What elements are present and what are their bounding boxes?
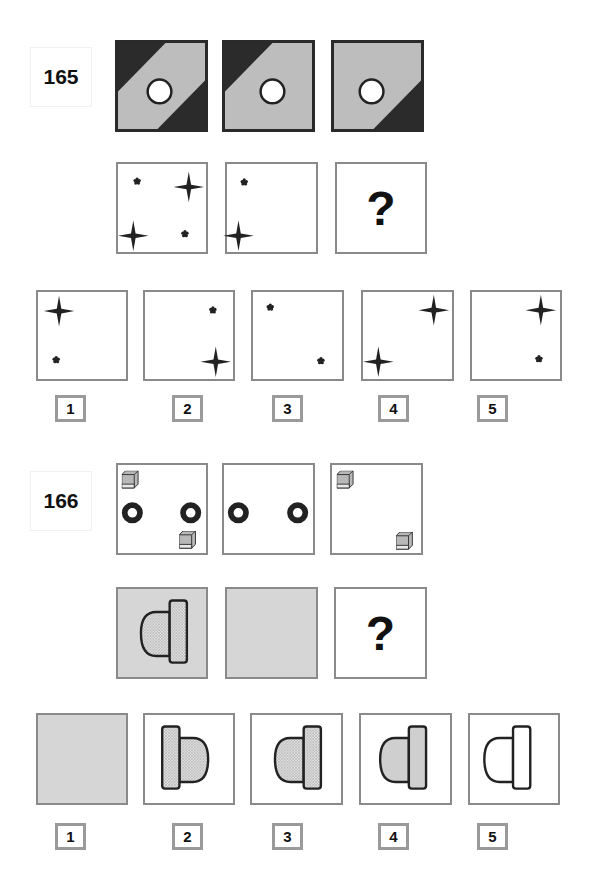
bar-shape (513, 726, 530, 788)
sequence-cell-166-r2-c2 (225, 587, 318, 679)
sequence-cell-165-r2-c2 (225, 162, 318, 254)
option-label-166-4[interactable]: 4 (378, 823, 409, 850)
asterisk-icon (535, 355, 542, 362)
option-165-3[interactable] (251, 290, 344, 381)
sequence-cell-165-question: ? (335, 162, 427, 254)
ring-icon (290, 505, 305, 520)
dome-shape (179, 738, 208, 782)
option-166-4[interactable] (359, 713, 452, 805)
option-figure (363, 292, 452, 379)
option-label-165-1[interactable]: 1 (55, 395, 86, 422)
sequence-cell-166-r1-c2 (222, 463, 315, 555)
puzzle-number-166: 166 (30, 471, 92, 531)
star-icon (173, 172, 204, 203)
dome-shape (380, 738, 409, 782)
asterisk-icon (133, 177, 140, 184)
option-label-165-2[interactable]: 2 (172, 395, 203, 422)
dome-shape (484, 738, 513, 782)
star-icon (418, 295, 449, 326)
sequence-cell-166-r2-c1 (116, 587, 208, 679)
asterisk-icon (267, 303, 274, 310)
option-label-165-3[interactable]: 3 (272, 395, 303, 422)
star-icon (526, 295, 557, 326)
option-figure (145, 292, 233, 379)
option-figure (470, 715, 558, 803)
option-label-166-5[interactable]: 5 (477, 823, 508, 850)
ring-icon (125, 505, 140, 520)
sequence-cell-166-r1-c1 (116, 463, 208, 555)
option-165-4[interactable] (361, 290, 454, 381)
star-icon (44, 296, 75, 327)
option-figure (361, 715, 450, 803)
option-figure (252, 715, 341, 803)
cube-icon (179, 531, 195, 548)
diagonal-band-figure (334, 43, 421, 129)
option-166-5[interactable] (468, 713, 560, 805)
dome-shape (275, 738, 304, 782)
diagonal-band-figure (118, 43, 205, 129)
star-icon (200, 346, 231, 377)
asterisk-icon (209, 306, 216, 313)
cubes-rings-figure (118, 465, 206, 553)
option-label-165-5[interactable]: 5 (477, 395, 508, 422)
star-icon (118, 220, 149, 251)
asterisk-icon (241, 178, 248, 185)
sequence-cell-165-r1-c3 (331, 40, 424, 132)
cube-icon (337, 471, 353, 488)
bar-shape (170, 600, 187, 662)
star-icon (223, 220, 254, 251)
question-mark: ? (336, 589, 425, 677)
diagonal-band-figure (225, 43, 312, 129)
dome-bar-figure (118, 589, 206, 677)
bar-shape (409, 726, 426, 788)
ring-icon (183, 505, 198, 520)
option-165-2[interactable] (143, 290, 235, 381)
cube-icon (122, 471, 138, 488)
cube-icon (396, 532, 412, 549)
dome-shape (141, 612, 170, 656)
option-figure (38, 292, 126, 379)
option-label-166-2[interactable]: 2 (172, 823, 203, 850)
option-165-1[interactable] (36, 290, 128, 381)
stars-figure (118, 164, 206, 252)
sequence-cell-165-r2-c1 (116, 162, 208, 254)
cubes-figure (332, 465, 421, 553)
asterisk-icon (52, 356, 59, 363)
option-165-5[interactable] (470, 290, 562, 381)
star-icon (363, 346, 394, 377)
option-label-165-4[interactable]: 4 (378, 395, 409, 422)
puzzle-number-165: 165 (30, 47, 92, 107)
sequence-cell-165-r1-c1 (115, 40, 208, 132)
option-figure (253, 292, 342, 379)
option-label-166-3[interactable]: 3 (272, 823, 303, 850)
option-166-1[interactable] (36, 713, 128, 805)
bar-shape (304, 726, 321, 788)
rings-figure (224, 465, 313, 553)
option-166-3[interactable] (250, 713, 343, 805)
option-figure (145, 715, 233, 803)
question-mark: ? (337, 164, 425, 252)
stars-figure (227, 164, 316, 252)
option-label-166-1[interactable]: 1 (55, 823, 86, 850)
sequence-cell-166-question: ? (334, 587, 427, 679)
asterisk-icon (317, 357, 324, 364)
option-figure (472, 292, 560, 379)
asterisk-icon (181, 230, 188, 237)
option-166-2[interactable] (143, 713, 235, 805)
sequence-cell-166-r1-c3 (330, 463, 423, 555)
sequence-cell-165-r1-c2 (222, 40, 315, 132)
ring-icon (231, 505, 246, 520)
bar-shape (162, 726, 179, 788)
